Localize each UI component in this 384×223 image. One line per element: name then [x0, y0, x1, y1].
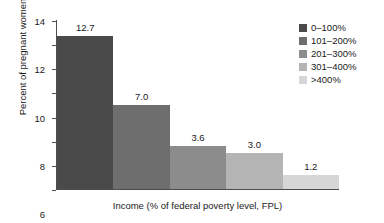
bar[interactable] [170, 146, 226, 189]
bar-group[interactable]: 3.6 [170, 20, 226, 189]
bar-value-label: 7.0 [113, 92, 169, 102]
bar-value-label: 3.6 [170, 133, 226, 143]
bar[interactable] [226, 153, 282, 189]
y-tick-mark: 10 [52, 69, 56, 70]
legend-item[interactable]: 201–300% [299, 47, 356, 60]
legend-swatch-icon [299, 37, 307, 45]
bar-group[interactable]: 12.7 [57, 20, 113, 189]
y-tick-mark: 0 [52, 190, 56, 191]
bar-value-label: 3.0 [226, 140, 282, 150]
y-tick-mark: 8 [52, 93, 56, 94]
legend-swatch-icon [299, 76, 307, 84]
bar-value-label: 12.7 [57, 23, 113, 33]
x-axis-title: Income (% of federal poverty level, FPL) [56, 200, 339, 211]
plot-area: 02468101214 12.77.03.63.01.2 [56, 20, 339, 190]
bar-group[interactable]: 3.0 [226, 20, 282, 189]
y-tick-label: 10 [34, 114, 45, 124]
bar[interactable] [57, 36, 113, 189]
legend-swatch-icon [299, 63, 307, 71]
x-axis-line [56, 189, 339, 190]
y-tick-label: 14 [34, 17, 45, 27]
legend-label: 0–100% [311, 23, 346, 33]
bar[interactable] [113, 105, 169, 190]
legend-label: 101–200% [311, 36, 356, 46]
bar[interactable] [283, 175, 339, 189]
y-tick-mark: 12 [52, 45, 56, 46]
bars-layer: 12.77.03.63.01.2 [57, 20, 339, 189]
legend-swatch-icon [299, 50, 307, 58]
y-tick-label: 8 [40, 162, 45, 172]
legend-swatch-icon [299, 24, 307, 32]
bar-group[interactable]: 7.0 [113, 20, 169, 189]
legend-label: 301–400% [311, 62, 356, 72]
y-tick-label: 6 [40, 210, 45, 220]
legend-label: >400% [311, 75, 341, 85]
legend-item[interactable]: 101–200% [299, 34, 356, 47]
y-tick-label: 12 [34, 65, 45, 75]
bar-value-label: 1.2 [283, 162, 339, 172]
legend-item[interactable]: 0–100% [299, 21, 356, 34]
legend-item[interactable]: >400% [299, 73, 356, 86]
y-axis-title: Percent of pregnant women [18, 0, 28, 132]
y-tick-mark: 4 [52, 142, 56, 143]
y-tick-mark: 2 [52, 166, 56, 167]
chart-legend: 0–100%101–200%201–300%301–400%>400% [299, 21, 356, 86]
y-tick-mark: 6 [52, 118, 56, 119]
bar-chart-figure: Percent of pregnant women 02468101214 12… [0, 0, 384, 223]
legend-item[interactable]: 301–400% [299, 60, 356, 73]
y-tick-mark: 14 [52, 21, 56, 22]
legend-label: 201–300% [311, 49, 356, 59]
